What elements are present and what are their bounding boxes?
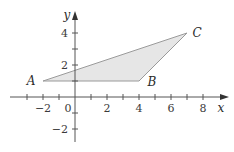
y-tick-label: −2 (52, 123, 68, 136)
x-tick-label: 4 (136, 102, 143, 115)
x-tick-label: 6 (168, 102, 175, 115)
point-label-b: B (147, 75, 157, 89)
x-tick-label: −2 (35, 102, 51, 115)
point-label-a: A (26, 74, 36, 88)
y-tick-label: 4 (61, 27, 68, 40)
point-label-c: C (192, 26, 201, 40)
y-tick-label: 2 (61, 59, 68, 72)
x-tick-label: 8 (200, 102, 207, 115)
y-axis-label: y (63, 8, 71, 22)
x-axis-label: x (218, 101, 225, 115)
coordinate-plane: −2 0 2 4 6 8 4 2 −2 x y A B C (0, 0, 234, 152)
x-axis-arrow-icon (220, 94, 229, 100)
x-tick-label: 0 (65, 102, 72, 115)
x-tick-label: 2 (104, 102, 111, 115)
y-axis-arrow-icon (72, 11, 78, 20)
triangle-abc (43, 33, 187, 81)
